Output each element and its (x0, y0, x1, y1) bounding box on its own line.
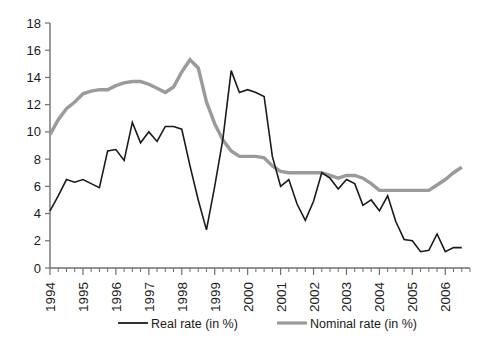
x-tick-label: 1994 (43, 282, 58, 313)
x-tick-label: 2004 (372, 282, 387, 313)
x-tick-label: 1995 (76, 282, 91, 312)
y-tick-label: 16 (27, 43, 41, 58)
chart-legend: Real rate (in %)Nominal rate (in %) (118, 317, 417, 331)
y-tick-label: 8 (34, 152, 41, 167)
y-tick-label: 12 (27, 97, 41, 112)
y-tick-label: 10 (27, 124, 41, 139)
x-axis: 1994199519961997199819992000200120022003… (43, 268, 470, 312)
series-line-nominal (50, 60, 462, 191)
x-tick-label: 1996 (109, 282, 124, 312)
y-tick-label: 6 (34, 179, 41, 194)
legend-label-1: Nominal rate (in %) (310, 317, 417, 331)
x-tick-label: 2001 (274, 282, 289, 312)
y-tick-label: 18 (27, 16, 41, 31)
series-line-real (50, 71, 462, 252)
x-tick-label: 2003 (339, 282, 354, 312)
x-tick-label: 2002 (307, 282, 322, 312)
y-tick-label: 4 (34, 206, 41, 221)
y-tick-label: 2 (34, 233, 41, 248)
legend-label-0: Real rate (in %) (151, 317, 238, 331)
x-tick-label: 1998 (175, 282, 190, 312)
line-chart: 024681012141618 199419951996199719981999… (0, 0, 489, 348)
chart-container: 024681012141618 199419951996199719981999… (0, 0, 489, 348)
y-tick-label: 14 (27, 70, 41, 85)
series-lines (50, 60, 462, 252)
x-tick-label: 2005 (405, 282, 420, 312)
y-tick-label: 0 (34, 261, 41, 276)
x-tick-label: 2000 (241, 282, 256, 312)
x-tick-label: 1999 (208, 282, 223, 312)
x-tick-label: 1997 (142, 282, 157, 312)
x-tick-label: 2006 (438, 282, 453, 312)
y-axis: 024681012141618 (27, 16, 50, 276)
